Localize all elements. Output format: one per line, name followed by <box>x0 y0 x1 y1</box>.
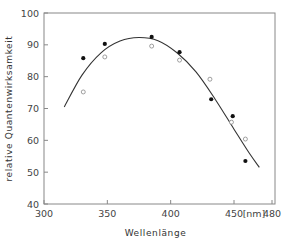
y-tick-label: 60 <box>27 135 39 146</box>
x-unit-label: [nm] <box>243 208 266 219</box>
data-point-open <box>208 77 212 81</box>
chart: 405060708090100300350400450480[nm]Wellen… <box>0 0 289 242</box>
data-point-filled <box>177 50 181 54</box>
x-tick-label: 300 <box>35 208 53 219</box>
data-point-filled <box>81 56 85 60</box>
y-tick-label: 100 <box>21 8 39 19</box>
data-point-filled <box>103 42 107 46</box>
data-point-open <box>243 137 247 141</box>
fit-curve <box>64 38 259 168</box>
y-tick-label: 80 <box>27 71 39 82</box>
x-tick-label: 350 <box>98 208 116 219</box>
y-tick-label: 50 <box>27 167 39 178</box>
y-tick-label: 70 <box>27 103 39 114</box>
y-axis-label: relative Quantenwirksamkeit <box>4 36 14 182</box>
data-point-open <box>229 120 233 124</box>
x-tick-label: 400 <box>162 208 180 219</box>
data-point-open <box>81 90 85 94</box>
data-point-filled <box>209 97 213 101</box>
x-tick-label: 480 <box>263 208 281 219</box>
data-point-open <box>103 55 107 59</box>
data-point-filled <box>231 114 235 118</box>
data-point-open <box>150 44 154 48</box>
data-point-filled <box>243 159 247 163</box>
data-point-filled <box>150 35 154 39</box>
x-tick-label: 450 <box>225 208 243 219</box>
data-point-open <box>178 58 182 62</box>
x-axis-label: Wellenlänge <box>125 228 187 238</box>
y-tick-label: 90 <box>27 39 39 50</box>
